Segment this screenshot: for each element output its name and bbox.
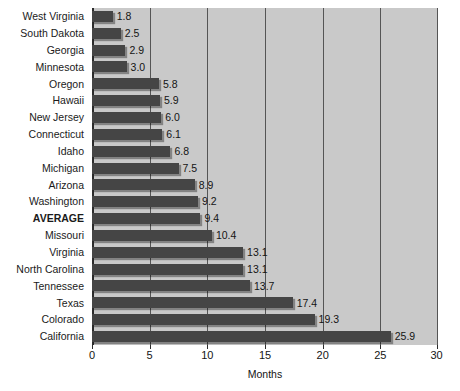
bar: [92, 78, 159, 89]
category-label: Oregon: [0, 75, 88, 92]
x-axis: 051015202530: [92, 345, 438, 365]
x-tick-label: 20: [317, 350, 329, 361]
bar-value-label: 1.8: [117, 11, 132, 22]
category-label: New Jersey: [0, 109, 88, 126]
bar-row: 2.9: [92, 42, 437, 59]
bar-row: 9.2: [92, 193, 437, 210]
bar: [92, 331, 391, 342]
bar: [92, 129, 162, 140]
bar-value-label: 13.7: [254, 281, 274, 292]
x-tick-label: 25: [374, 350, 386, 361]
bar-row: 19.3: [92, 311, 437, 328]
category-label: Minnesota: [0, 59, 88, 76]
bar-value-label: 9.4: [204, 213, 219, 224]
bar-row: 8.9: [92, 176, 437, 193]
category-axis: West VirginiaSouth DakotaGeorgiaMinnesot…: [0, 8, 88, 345]
bar-row: 13.7: [92, 278, 437, 295]
bar-value-label: 6.1: [166, 129, 181, 140]
bar-row: 5.8: [92, 75, 437, 92]
category-label: Idaho: [0, 143, 88, 160]
category-label: Missouri: [0, 227, 88, 244]
bar-row: 3.0: [92, 59, 437, 76]
x-tick-label: 30: [430, 350, 442, 361]
bar-value-label: 6.0: [165, 112, 180, 123]
bar-value-label: 9.2: [202, 196, 217, 207]
bar-value-label: 13.1: [247, 247, 267, 258]
bar-value-label: 8.9: [199, 180, 214, 191]
bar-row: 7.5: [92, 160, 437, 177]
category-label: Colorado: [0, 311, 88, 328]
category-label: Texas: [0, 294, 88, 311]
bar: [92, 95, 160, 106]
bar-row: 25.9: [92, 328, 437, 345]
plot-area: 1.82.52.93.05.85.96.06.16.87.58.99.29.41…: [92, 8, 438, 345]
bar-value-label: 25.9: [395, 331, 415, 342]
category-label: California: [0, 328, 88, 345]
bar: [92, 213, 200, 224]
category-label: South Dakota: [0, 25, 88, 42]
bars-layer: 1.82.52.93.05.85.96.06.16.87.58.99.29.41…: [92, 8, 437, 345]
category-label: West Virginia: [0, 8, 88, 25]
bar: [92, 45, 125, 56]
bar-value-label: 2.5: [125, 28, 140, 39]
bar-value-label: 5.8: [163, 79, 178, 90]
bar: [92, 61, 127, 72]
x-tick-label: 10: [201, 350, 213, 361]
bar: [92, 264, 243, 275]
bar-row: 13.1: [92, 261, 437, 278]
bar: [92, 146, 170, 157]
category-label: Washington: [0, 193, 88, 210]
bar: [92, 280, 250, 291]
category-label: Virginia: [0, 244, 88, 261]
bar-value-label: 10.4: [216, 230, 236, 241]
bar: [92, 314, 315, 325]
bar: [92, 28, 121, 39]
category-label: AVERAGE: [0, 210, 88, 227]
bar-row: 6.1: [92, 126, 437, 143]
bar-value-label: 6.8: [174, 146, 189, 157]
bar-row: 10.4: [92, 227, 437, 244]
bar-value-label: 7.5: [183, 163, 198, 174]
bar-chart: West VirginiaSouth DakotaGeorgiaMinnesot…: [0, 0, 460, 391]
bar-row: 5.9: [92, 92, 437, 109]
x-axis-title: Months: [92, 368, 438, 380]
bar-row: 6.8: [92, 143, 437, 160]
x-tick-label: 5: [147, 350, 153, 361]
bar-value-label: 13.1: [247, 264, 267, 275]
bar-value-label: 3.0: [131, 62, 146, 73]
category-label: Connecticut: [0, 126, 88, 143]
bar-row: 9.4: [92, 210, 437, 227]
bar: [92, 247, 243, 258]
category-label: Michigan: [0, 160, 88, 177]
bar-value-label: 2.9: [129, 45, 144, 56]
category-label: Arizona: [0, 176, 88, 193]
category-label: Tennessee: [0, 278, 88, 295]
bar: [92, 112, 161, 123]
bar-value-label: 17.4: [297, 298, 317, 309]
bar-value-label: 5.9: [164, 95, 179, 106]
bar: [92, 297, 293, 308]
category-label: Georgia: [0, 42, 88, 59]
bar: [92, 230, 212, 241]
x-tick-label: 15: [259, 350, 271, 361]
category-label: North Carolina: [0, 261, 88, 278]
bar-row: 2.5: [92, 25, 437, 42]
bar: [92, 11, 113, 22]
bar: [92, 196, 198, 207]
bar-row: 13.1: [92, 244, 437, 261]
bar-row: 17.4: [92, 294, 437, 311]
bar-value-label: 19.3: [319, 314, 339, 325]
bar: [92, 179, 195, 190]
bar: [92, 163, 179, 174]
category-label: Hawaii: [0, 92, 88, 109]
bar-row: 1.8: [92, 8, 437, 25]
bar-row: 6.0: [92, 109, 437, 126]
x-tick-label: 0: [89, 350, 95, 361]
